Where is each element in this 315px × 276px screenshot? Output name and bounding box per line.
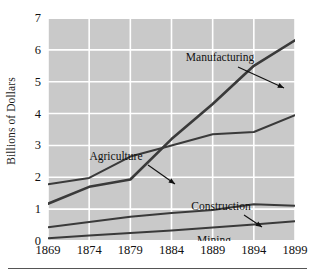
- x-tick-label: 1889: [200, 243, 225, 258]
- x-tick-label: 1899: [283, 243, 308, 258]
- y-tick-label: 6: [35, 44, 41, 57]
- plot-area: ManufacturingAgricultureConstructionMini…: [48, 18, 295, 241]
- bottom-divider-rule: [8, 268, 307, 269]
- annotation-arrow-line-manufacturing: [238, 67, 284, 88]
- y-axis-title-text: Billions of Dollars: [5, 77, 17, 165]
- y-tick-label: 5: [35, 75, 41, 88]
- series-label-construction: Construction: [191, 200, 251, 212]
- x-tick-label: 1874: [77, 243, 102, 258]
- y-tick-label: 3: [35, 139, 41, 152]
- annotation-arrow-head-agriculture: [168, 178, 175, 184]
- x-tick-label: 1869: [36, 243, 61, 258]
- y-tick-label: 1: [35, 203, 41, 216]
- series-label-agriculture: Agriculture: [89, 150, 142, 163]
- y-axis-tick-labels: 01234567: [22, 18, 45, 241]
- series-label-manufacturing: Manufacturing: [186, 51, 255, 64]
- x-tick-label: 1884: [159, 243, 184, 258]
- y-axis-title: Billions of Dollars: [0, 0, 22, 241]
- y-tick-label: 4: [35, 107, 41, 120]
- chart-figure: Billions of Dollars 01234567 Manufacturi…: [0, 0, 315, 276]
- x-axis-tick-labels: 1869187418791884188918941899: [48, 243, 295, 263]
- series-label-mining: Mining: [197, 234, 231, 241]
- chart-plot-svg: ManufacturingAgricultureConstructionMini…: [48, 18, 295, 241]
- y-tick-label: 2: [35, 171, 41, 184]
- x-tick-label: 1894: [241, 243, 266, 258]
- y-tick-label: 7: [35, 12, 41, 25]
- x-tick-label: 1879: [118, 243, 143, 258]
